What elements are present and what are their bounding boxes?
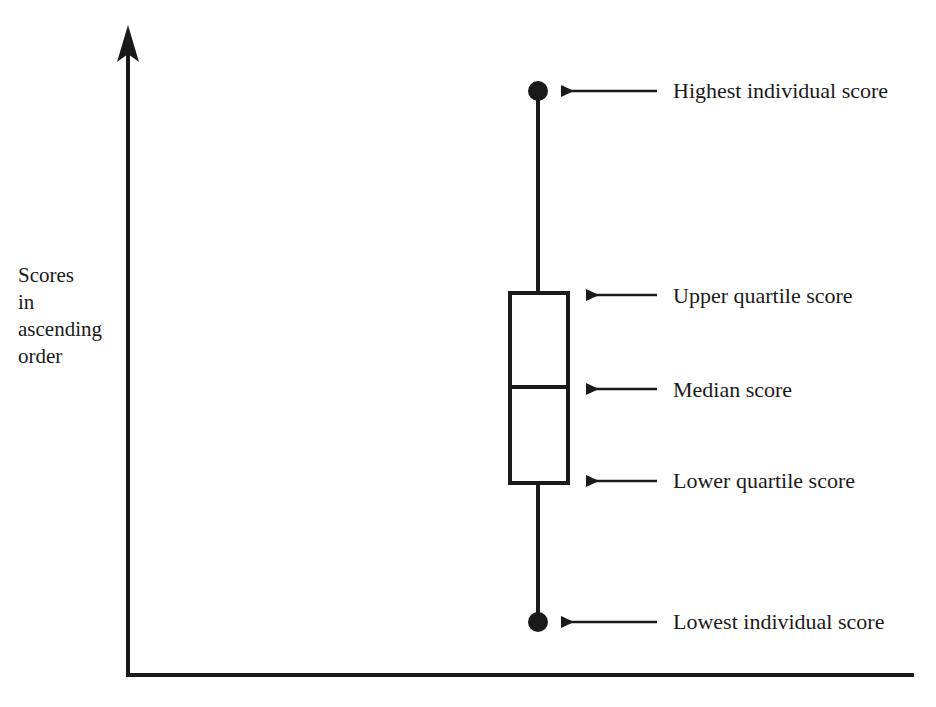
axis-group — [117, 25, 914, 675]
callout-label-lowest-individual-score: Lowest individual score — [673, 609, 884, 635]
box-plot-group — [510, 81, 568, 632]
callout-label-median-score: Median score — [673, 377, 792, 403]
callout-label-upper-quartile-score: Upper quartile score — [673, 283, 853, 309]
callout-label-highest-individual-score: Highest individual score — [673, 78, 888, 104]
callout-arrow-group — [561, 91, 657, 622]
callout-label-lower-quartile-score: Lower quartile score — [673, 468, 855, 494]
lowest-score-dot-icon — [528, 612, 548, 632]
box-plot-canvas — [0, 0, 936, 707]
y-axis-label: Scores in ascending order — [18, 262, 138, 370]
highest-score-dot-icon — [528, 81, 548, 101]
box-plot-figure: Scores in ascending order Highest indivi… — [0, 0, 936, 707]
